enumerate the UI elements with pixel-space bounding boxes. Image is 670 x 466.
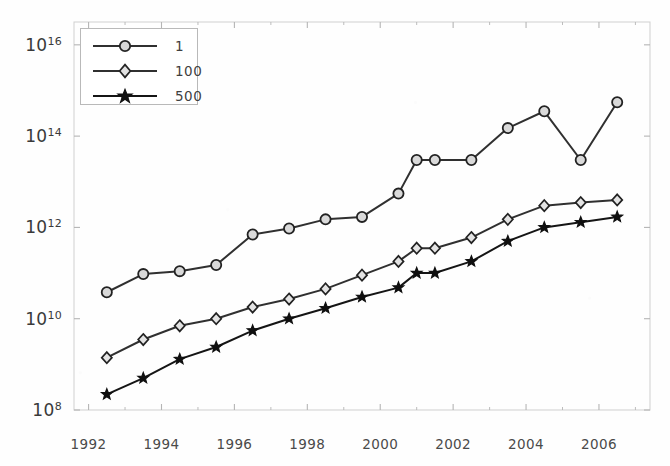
series-500 (101, 211, 622, 399)
x-tick-1996: 1996 (216, 436, 252, 452)
chart-legend: 1 100 500 (80, 28, 198, 105)
legend-marker-open-diamond-icon (89, 60, 161, 82)
x-tick-1992: 1992 (71, 436, 107, 452)
y-tick-10-16: 1016 (14, 34, 62, 55)
x-tick-1994: 1994 (144, 436, 180, 452)
chart-figure: 1081010101210141016 19921994199619982000… (0, 0, 670, 466)
legend-marker-filled-star-icon (89, 85, 161, 107)
x-tick-2000: 2000 (362, 436, 398, 452)
legend-item-1: 1 (89, 35, 184, 57)
x-tick-2006: 2006 (581, 436, 617, 452)
legend-label-500: 500 (175, 88, 202, 104)
x-tick-1998: 1998 (289, 436, 325, 452)
legend-label-1: 1 (175, 38, 184, 54)
series-1 (102, 97, 623, 297)
y-tick-10-12: 1012 (14, 217, 62, 238)
legend-item-500: 500 (89, 85, 202, 107)
legend-marker-open-circle-icon (89, 35, 161, 57)
legend-item-100: 100 (89, 60, 202, 82)
y-tick-10-10: 1010 (14, 308, 62, 329)
y-tick-10-8: 108 (14, 400, 62, 421)
x-tick-2002: 2002 (435, 436, 471, 452)
legend-label-100: 100 (175, 63, 202, 79)
x-tick-2004: 2004 (508, 436, 544, 452)
data-series-group (101, 97, 622, 399)
y-tick-10-14: 1014 (14, 126, 62, 147)
